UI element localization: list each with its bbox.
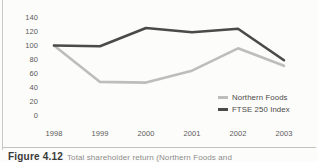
chart-plot-area: [0, 0, 318, 147]
y-axis-tick-0: 0: [12, 112, 38, 120]
legend-item-ftse-250: FTSE 250 Index: [218, 104, 314, 115]
line-chart: 140 120 100 80 60 40 20 0 1998 1999 2000…: [0, 0, 318, 147]
y-axis-tick-100: 100: [12, 42, 38, 50]
y-axis-tick-20: 20: [12, 98, 38, 106]
y-axis-tick-80: 80: [12, 56, 38, 64]
x-axis-tick-1999: 1999: [83, 129, 117, 138]
legend-label-ftse-250: FTSE 250 Index: [232, 105, 290, 114]
legend-swatch-northern-foods: [218, 96, 228, 99]
x-axis-tick-1998: 1998: [37, 129, 71, 138]
figure-caption-number: Figure 4.12: [8, 151, 63, 162]
y-axis-tick-60: 60: [12, 70, 38, 78]
legend-label-northern-foods: Northern Foods: [232, 93, 288, 102]
y-axis-tick-40: 40: [12, 84, 38, 92]
x-axis-tick-2001: 2001: [175, 129, 209, 138]
figure-caption-divider: [2, 147, 316, 148]
figure-caption: Figure 4.12 Total shareholder return (No…: [8, 151, 314, 162]
y-axis-tick-120: 120: [12, 28, 38, 36]
y-axis-tick-140: 140: [12, 14, 38, 22]
legend-item-northern-foods: Northern Foods: [218, 92, 314, 103]
legend-swatch-ftse-250: [218, 108, 228, 111]
figure-caption-text: Total shareholder return (Northern Foods…: [67, 151, 232, 162]
x-axis-tick-2003: 2003: [267, 129, 301, 138]
series-line-northern-foods: [54, 46, 284, 83]
chart-legend: Northern Foods FTSE 250 Index: [218, 92, 314, 116]
x-axis-tick-2002: 2002: [221, 129, 255, 138]
x-axis-tick-2000: 2000: [129, 129, 163, 138]
series-line-ftse-250: [54, 28, 284, 60]
